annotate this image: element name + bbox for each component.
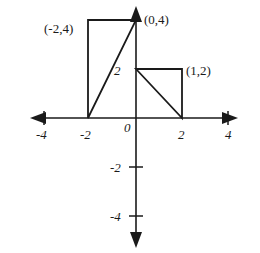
y-axis-label-2: 2 — [114, 64, 121, 77]
x-axis-label-neg2: -2 — [80, 128, 91, 141]
vertex-label-0-4: (0,4) — [144, 13, 169, 26]
x-axis-label-2: 2 — [178, 128, 185, 141]
small-triangle-shape — [136, 69, 182, 118]
x-axis-label-neg4: -4 — [36, 128, 47, 141]
origin-label: 0 — [124, 121, 131, 134]
large-triangle-shape — [88, 20, 136, 118]
vertex-label-1-2: (1,2) — [186, 64, 211, 77]
x-axis-right-arrowhead — [222, 112, 238, 124]
x-axis-label-4: 4 — [225, 128, 232, 141]
y-axis-bottom-arrowhead — [130, 232, 142, 248]
vertex-label-neg2-4: (-2,4) — [44, 22, 73, 35]
coordinate-plane-figure: (-2,4) (0,4) (1,2) 2 -4 -2 0 2 4 -2 -4 — [0, 0, 260, 253]
y-axis-label-neg2: -2 — [110, 161, 121, 174]
y-axis-label-neg4: -4 — [110, 210, 121, 223]
